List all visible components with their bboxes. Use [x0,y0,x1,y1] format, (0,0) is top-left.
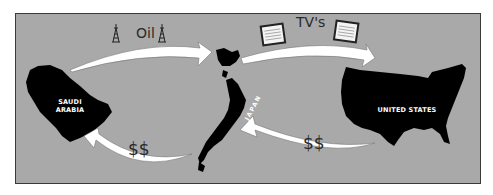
saudi-arabia-label-line-2: ARABIA [50,106,90,114]
oil-flow-label: Oil [136,25,155,41]
united-states-label: UNITED STATES [372,106,442,114]
oil-derrick-icon [158,24,166,42]
tvs-flow-label: TV's [296,14,325,30]
usd-flow-to-saudi-arabia-label: $$ [128,139,150,159]
oil-flow-arrow [70,42,212,72]
japan-map [198,48,246,172]
usd-flow-to-japan-label: $$ [303,133,325,153]
tv-icon [261,24,285,46]
oil-derrick-icon [112,24,120,42]
united-states-map [341,64,466,146]
tvs-flow-arrow [241,44,375,67]
saudi-arabia-label: SAUDI ARABIA [50,98,90,114]
saudi-arabia-label-line-1: SAUDI [50,98,90,106]
tv-icon [334,21,358,43]
